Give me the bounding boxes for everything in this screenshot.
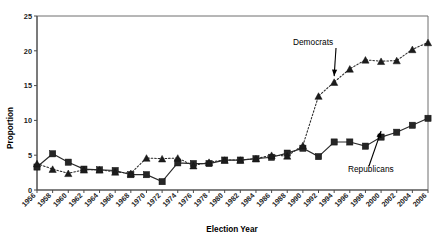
marker-republicans-2002 — [394, 129, 400, 135]
x-tick-label-1974: 1974 — [160, 191, 178, 209]
x-tick-label-1980: 1980 — [207, 191, 225, 209]
x-tick-label-1996: 1996 — [333, 191, 351, 209]
marker-republicans-1994 — [331, 139, 337, 145]
marker-democrats-1960 — [65, 170, 72, 177]
x-axis-ticks: 1956195819601962196419661968197019721974… — [20, 190, 429, 209]
x-tick-label-1960: 1960 — [51, 191, 69, 209]
x-tick-label-1964: 1964 — [82, 191, 100, 209]
marker-democrats-2006 — [424, 39, 431, 46]
annotation-arrowhead-republicans — [377, 131, 382, 138]
marker-republicans-1998 — [362, 143, 368, 149]
series-annotations: DemocratsRepublicans — [293, 37, 394, 174]
x-tick-label-1976: 1976 — [176, 191, 194, 209]
x-tick-label-1986: 1986 — [254, 191, 272, 209]
y-tick-label-5: 5 — [28, 151, 32, 160]
x-tick-label-1958: 1958 — [35, 191, 53, 209]
series-line-democrats — [37, 42, 428, 173]
annotation-arrowhead-democrats — [332, 69, 337, 76]
y-tick-label-20: 20 — [24, 47, 32, 56]
x-tick-label-2004: 2004 — [395, 191, 413, 209]
marker-republicans-1960 — [65, 159, 71, 165]
marker-democrats-1958 — [49, 166, 56, 173]
x-tick-label-1992: 1992 — [301, 191, 319, 209]
y-tick-label-10: 10 — [24, 116, 32, 125]
x-tick-label-1972: 1972 — [145, 191, 163, 209]
marker-democrats-1992 — [315, 93, 322, 100]
x-tick-label-1962: 1962 — [67, 191, 85, 209]
marker-republicans-1972 — [159, 179, 165, 185]
x-tick-label-1988: 1988 — [270, 191, 288, 209]
marker-democrats-1956 — [33, 160, 40, 167]
marker-democrats-2004 — [409, 46, 416, 53]
x-axis-title: Election Year — [206, 225, 258, 234]
x-tick-label-2000: 2000 — [364, 191, 382, 209]
marker-republicans-1996 — [347, 139, 353, 145]
x-tick-label-1982: 1982 — [223, 191, 241, 209]
marker-democrats-1996 — [346, 66, 353, 73]
annotation-label-democrats: Democrats — [293, 37, 333, 47]
marker-democrats-1994 — [331, 79, 338, 86]
y-tick-label-15: 15 — [24, 81, 32, 90]
y-axis-title: Proportion — [6, 107, 15, 149]
chart-figure: 0510152025 19561958196019621964196619681… — [0, 0, 443, 242]
x-tick-label-1956: 1956 — [20, 191, 38, 209]
marker-republicans-1992 — [315, 153, 321, 159]
marker-republicans-2004 — [409, 122, 415, 128]
x-tick-label-1998: 1998 — [348, 191, 366, 209]
annotation-label-republicans: Republicans — [348, 164, 394, 174]
x-tick-label-2006: 2006 — [411, 191, 429, 209]
marker-republicans-2006 — [425, 115, 431, 121]
chart-canvas: 0510152025 19561958196019621964196619681… — [0, 0, 443, 242]
x-tick-label-1966: 1966 — [98, 191, 116, 209]
x-tick-label-1978: 1978 — [192, 191, 210, 209]
data-series-group — [33, 39, 431, 185]
x-tick-label-1984: 1984 — [239, 191, 257, 209]
x-tick-label-1994: 1994 — [317, 191, 335, 209]
y-tick-label-25: 25 — [24, 12, 32, 21]
marker-republicans-1970 — [143, 172, 149, 178]
x-tick-label-1970: 1970 — [129, 191, 147, 209]
x-tick-label-1990: 1990 — [286, 191, 304, 209]
marker-republicans-1958 — [50, 151, 56, 157]
x-tick-label-1968: 1968 — [114, 191, 132, 209]
x-tick-label-2002: 2002 — [379, 191, 397, 209]
